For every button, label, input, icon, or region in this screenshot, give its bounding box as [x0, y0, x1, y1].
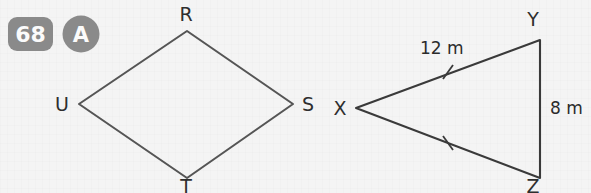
vertex-label-Z: Z: [526, 175, 539, 193]
geometry-figure: 68 A R S T U X Y Z 12 m 8 m: [0, 0, 591, 193]
side-measure-XY: 12 m: [420, 38, 464, 58]
question-number-badge: 68: [8, 17, 53, 51]
part-letter-badge: A: [63, 16, 100, 53]
vertex-label-T: T: [179, 175, 192, 193]
vertex-label-U: U: [55, 93, 69, 115]
question-number-badge-label: 68: [15, 22, 46, 47]
vertex-label-R: R: [179, 3, 192, 25]
kite-RSTU-outline: [79, 31, 293, 178]
triangle-XYZ: X Y Z 12 m 8 m: [333, 8, 582, 193]
vertex-label-S: S: [302, 93, 314, 115]
congruence-tick-XZ: [443, 136, 453, 150]
side-measure-YZ: 8 m: [550, 98, 583, 118]
geometry-figure-page: 68 A R S T U X Y Z 12 m 8 m: [0, 0, 591, 193]
vertex-label-Y: Y: [526, 8, 539, 30]
triangle-XYZ-outline: [356, 40, 540, 178]
part-letter-badge-label: A: [73, 23, 90, 47]
vertex-label-X: X: [333, 97, 346, 119]
